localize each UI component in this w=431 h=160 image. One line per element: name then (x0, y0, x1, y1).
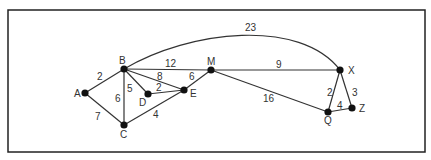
node-label-A: A (74, 88, 81, 99)
edge-weight-X-Z: 3 (352, 87, 358, 98)
edge-weight-B-E: 8 (157, 71, 163, 82)
node-B (120, 65, 127, 72)
node-label-D: D (139, 97, 146, 108)
node-X (336, 66, 343, 73)
edge-B-X (124, 35, 340, 70)
edge-weight-B-X: 23 (245, 22, 257, 33)
edge-weight-B-C: 6 (115, 93, 121, 104)
node-label-Z: Z (359, 103, 365, 114)
node-C (120, 121, 127, 128)
edge-A-B (85, 69, 124, 93)
node-E (180, 86, 187, 93)
edge-weight-A-B: 2 (97, 71, 103, 82)
edge-weight-M-Q: 16 (263, 93, 275, 104)
edge-B-E (124, 69, 184, 90)
graph-canvas: 276581224691623423 ABCDEMXQZ (0, 0, 431, 160)
node-label-Q: Q (324, 115, 332, 126)
edge-weight-B-M: 12 (165, 58, 177, 69)
node-label-B: B (119, 55, 126, 66)
edge-weight-C-E: 4 (153, 109, 159, 120)
edges-layer (85, 35, 352, 125)
graph-diagram: 276581224691623423 ABCDEMXQZ (0, 0, 431, 160)
edge-M-Q (211, 70, 328, 112)
node-label-X: X (348, 65, 355, 76)
node-label-C: C (120, 129, 127, 140)
edge-weight-M-X: 9 (276, 59, 282, 70)
edge-weight-B-D: 5 (127, 83, 133, 94)
node-A (81, 89, 88, 96)
edge-weight-Q-Z: 4 (337, 100, 343, 111)
node-M (207, 66, 214, 73)
edge-weight-X-Q: 2 (327, 87, 333, 98)
edge-weight-D-E: 2 (156, 82, 162, 93)
edge-weight-E-M: 6 (189, 71, 195, 82)
node-label-M: M (207, 56, 215, 67)
edge-B-M (124, 69, 211, 70)
edge-labels-layer: 276581224691623423 (95, 22, 358, 122)
node-label-E: E (190, 88, 197, 99)
diagram-frame (8, 10, 425, 152)
node-Z (348, 104, 355, 111)
edge-weight-A-C: 7 (95, 111, 101, 122)
